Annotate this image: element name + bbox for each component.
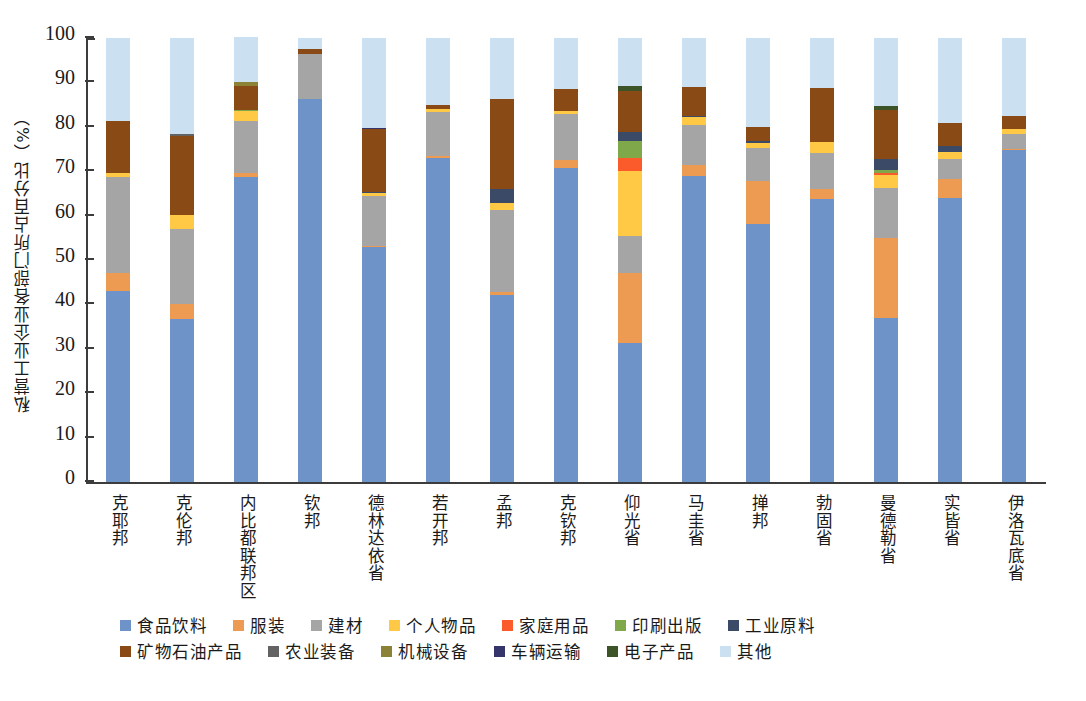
legend-item[interactable]: 车辆运输 xyxy=(494,639,581,663)
bar-segment xyxy=(810,38,834,88)
bar-segment xyxy=(234,177,258,482)
bar-segment xyxy=(618,158,642,171)
bar-stack xyxy=(298,38,322,482)
legend-item[interactable]: 家庭用品 xyxy=(502,613,589,637)
legend-swatch-icon xyxy=(233,620,244,631)
bar-segment xyxy=(618,86,642,91)
y-tick-label: 20 xyxy=(55,377,75,400)
bar-segment xyxy=(362,192,386,193)
bar-segment xyxy=(938,198,962,482)
bar-segment xyxy=(490,38,514,99)
legend-label: 印刷出版 xyxy=(632,613,702,637)
bar-segment xyxy=(234,121,258,173)
legend-swatch-icon xyxy=(615,620,626,631)
legend-swatch-icon xyxy=(311,620,322,631)
bar-segment xyxy=(170,136,194,215)
bar-segment xyxy=(234,86,258,110)
bar-segment xyxy=(874,188,898,238)
legend-swatch-icon xyxy=(494,646,505,657)
bar-segment xyxy=(874,38,898,106)
x-axis-category-label: 克伦邦 xyxy=(173,494,190,547)
legend-item[interactable]: 机械设备 xyxy=(381,639,468,663)
legend-item[interactable]: 电子产品 xyxy=(607,639,694,663)
bar-group: 克耶邦 xyxy=(86,38,150,482)
y-tick-label: 60 xyxy=(55,199,75,222)
bar-stack xyxy=(874,38,898,482)
bar-segment xyxy=(106,273,130,291)
legend-row-2: 矿物石油产品农业装备机械设备车辆运输电子产品其他 xyxy=(120,638,1020,664)
legend-swatch-icon xyxy=(120,620,131,631)
legend-item[interactable]: 个人物品 xyxy=(389,613,476,637)
stacked-bar-chart: 私营工业企业各部门所占百分比（%） 0102030405060708090100… xyxy=(0,0,1086,701)
bar-segment xyxy=(746,148,770,181)
bar-stack xyxy=(1002,38,1026,482)
y-axis-title-text: 私营工业企业各部门所占百分比（%） xyxy=(12,108,36,413)
bar-segment xyxy=(938,159,962,179)
bar-group: 勃固省 xyxy=(790,38,854,482)
bar-segment xyxy=(362,38,386,128)
legend-item[interactable]: 工业原料 xyxy=(728,613,815,637)
bar-stack xyxy=(170,38,194,482)
bar-group: 马圭省 xyxy=(662,38,726,482)
legend-label: 个人物品 xyxy=(406,613,476,637)
bar-segment xyxy=(490,292,514,295)
bar-stack xyxy=(554,38,578,482)
bar-segment xyxy=(554,168,578,482)
y-tick-label: 0 xyxy=(65,466,75,489)
bar-segment xyxy=(746,141,770,143)
bar-segment xyxy=(618,38,642,86)
bar-segment xyxy=(874,238,898,318)
bar-group: 克伦邦 xyxy=(150,38,214,482)
bar-segment xyxy=(1002,129,1026,134)
bar-segment xyxy=(426,112,450,156)
legend-label: 服装 xyxy=(250,613,285,637)
legend-item[interactable]: 服装 xyxy=(233,613,285,637)
bar-segment xyxy=(490,99,514,189)
x-axis-category-label: 仰光省 xyxy=(621,494,638,547)
bar-group: 实皆省 xyxy=(918,38,982,482)
bar-segment xyxy=(106,38,130,121)
legend-label: 建材 xyxy=(328,613,363,637)
x-axis-category-label: 伊洛瓦底省 xyxy=(1005,494,1022,582)
bar-segment xyxy=(938,179,962,199)
bar-segment xyxy=(362,247,386,482)
x-axis-category-label: 勃固省 xyxy=(813,494,830,547)
bar-group: 若开邦 xyxy=(406,38,470,482)
bar-series-container: 克耶邦克伦邦内比都联邦区钦邦德林达依省若开邦孟邦克钦邦仰光省马圭省掸邦勃固省曼德… xyxy=(86,38,1046,482)
bar-segment xyxy=(874,170,898,173)
bar-group: 曼德勒省 xyxy=(854,38,918,482)
legend-label: 其他 xyxy=(737,639,772,663)
bar-group: 伊洛瓦底省 xyxy=(982,38,1046,482)
bar-segment xyxy=(746,38,770,127)
bar-stack xyxy=(106,38,130,482)
bar-segment xyxy=(938,123,962,146)
x-axis-line xyxy=(86,482,1046,484)
legend-item[interactable]: 矿物石油产品 xyxy=(120,639,242,663)
bar-group: 内比都联邦区 xyxy=(214,38,278,482)
bar-segment xyxy=(234,110,258,111)
bar-segment xyxy=(618,171,642,236)
y-tick-label: 70 xyxy=(55,155,75,178)
legend-swatch-icon xyxy=(728,620,739,631)
bar-segment xyxy=(490,210,514,292)
legend-item[interactable]: 其他 xyxy=(720,639,772,663)
bar-segment xyxy=(682,176,706,482)
legend-item[interactable]: 食品饮料 xyxy=(120,613,207,637)
legend-item[interactable]: 印刷出版 xyxy=(615,613,702,637)
legend-label: 食品饮料 xyxy=(137,613,207,637)
bar-segment xyxy=(554,160,578,168)
legend: 食品饮料服装建材个人物品家庭用品印刷出版工业原料 矿物石油产品农业装备机械设备车… xyxy=(120,612,1020,664)
legend-item[interactable]: 农业装备 xyxy=(268,639,355,663)
bar-segment xyxy=(554,89,578,111)
bar-segment xyxy=(874,159,898,170)
bar-group: 孟邦 xyxy=(470,38,534,482)
bar-stack xyxy=(362,38,386,482)
bar-stack xyxy=(746,38,770,482)
bar-segment xyxy=(810,142,834,154)
bar-segment xyxy=(746,127,770,142)
legend-label: 车辆运输 xyxy=(511,639,581,663)
y-tick-label: 10 xyxy=(55,421,75,444)
bar-segment xyxy=(1002,116,1026,129)
legend-item[interactable]: 建材 xyxy=(311,613,363,637)
x-axis-category-label: 德林达依省 xyxy=(365,494,382,582)
